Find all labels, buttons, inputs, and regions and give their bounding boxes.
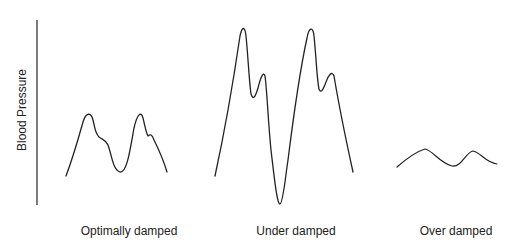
y-axis-label: Blood Pressure xyxy=(15,69,29,151)
waveform-canvas xyxy=(0,0,517,247)
optimally-damped-waveform xyxy=(66,114,167,176)
caption-optimally-damped: Optimally damped xyxy=(81,224,178,238)
under-damped-waveform xyxy=(215,29,353,205)
caption-over-damped: Over damped xyxy=(420,224,493,238)
caption-under-damped: Under damped xyxy=(256,224,335,238)
over-damped-waveform xyxy=(397,149,497,167)
damping-waveform-diagram: Blood Pressure Optimally damped Under da… xyxy=(0,0,517,247)
